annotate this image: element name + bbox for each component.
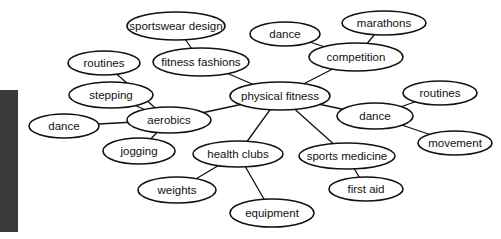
node-competition: competition xyxy=(309,43,403,71)
node-label: jogging xyxy=(119,145,157,157)
node-dance-right: dance xyxy=(337,103,413,129)
node-label: dance xyxy=(48,120,79,132)
node-weights: weights xyxy=(138,177,216,203)
node-label: routines xyxy=(84,57,125,69)
node-label: dance xyxy=(359,110,390,122)
node-label: equipment xyxy=(245,207,300,219)
mind-map-diagram: physical fitnessfitness fashionssportswe… xyxy=(0,0,501,239)
node-label: fitness fashions xyxy=(161,56,241,68)
node-label: sportswear design xyxy=(129,20,222,32)
node-movement: movement xyxy=(418,131,492,155)
node-label: dance xyxy=(269,28,300,40)
node-label: competition xyxy=(327,51,386,63)
node-fitness-fashions: fitness fashions xyxy=(153,48,249,76)
node-label: first aid xyxy=(347,183,384,195)
node-label: stepping xyxy=(89,89,132,101)
node-stepping: stepping xyxy=(69,82,153,108)
node-sportswear-design: sportswear design xyxy=(127,12,225,40)
node-sports-medicine: sports medicine xyxy=(299,143,395,169)
node-routines-right: routines xyxy=(403,81,477,105)
node-label: movement xyxy=(428,137,482,149)
node-jogging: jogging xyxy=(103,138,175,164)
nodes-layer: physical fitnessfitness fashionssportswe… xyxy=(29,11,492,227)
node-physical-fitness: physical fitness xyxy=(230,82,330,110)
node-routines-left: routines xyxy=(68,51,140,75)
node-label: routines xyxy=(420,87,461,99)
node-equipment: equipment xyxy=(230,199,314,227)
node-label: marathons xyxy=(357,17,412,29)
node-marathons: marathons xyxy=(342,11,426,35)
node-label: sports medicine xyxy=(307,150,388,162)
node-label: health clubs xyxy=(207,148,269,160)
node-label: physical fitness xyxy=(241,90,319,102)
node-label: weights xyxy=(157,184,197,196)
node-health-clubs: health clubs xyxy=(193,141,283,167)
node-dance-left: dance xyxy=(29,114,99,138)
node-first-aid: first aid xyxy=(329,177,403,201)
node-label: aerobics xyxy=(147,114,191,126)
node-dance-top: dance xyxy=(250,22,320,46)
node-aerobics: aerobics xyxy=(127,107,211,133)
